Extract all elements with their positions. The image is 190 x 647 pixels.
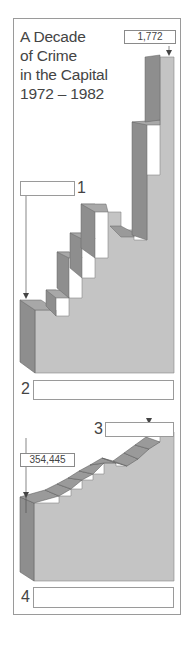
staircase-chart-1 [0,0,190,647]
chart2-answer-input[interactable] [33,587,174,608]
chart1-answer-input[interactable] [33,380,174,400]
question-number-2: 2 [21,380,30,398]
question-number-3: 3 [94,420,103,438]
chart1-side-face [20,300,35,373]
question-number-4: 4 [21,588,30,606]
question-number-1: 1 [77,179,86,197]
chart2-end-value-input[interactable] [105,422,174,437]
chart2-side-face [20,497,34,581]
chart1-start-value-input[interactable] [20,181,75,196]
chart1-end-value-label: 1,772 [124,30,176,44]
chart2-start-value-label: 354,445 [20,453,75,467]
